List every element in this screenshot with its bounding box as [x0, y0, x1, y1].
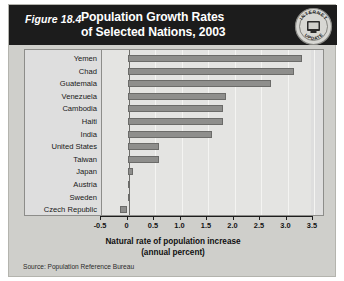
- category-label: Venezuela: [25, 91, 97, 103]
- figure-card: Figure 18.4 Population Growth Rates of S…: [8, 4, 336, 277]
- bar: [128, 131, 213, 138]
- x-axis-tick: [127, 216, 128, 220]
- chart-row: Austria: [25, 179, 323, 191]
- x-axis-tick-label: -0.5: [85, 221, 115, 230]
- figure-title-line-2: of Selected Nations, 2003: [81, 25, 281, 40]
- chart-row: Czech Republic: [25, 204, 323, 216]
- internet-update-badge-icon: INTERNET UPDATE: [294, 7, 333, 46]
- category-label: Guatemala: [25, 78, 97, 90]
- x-axis-tick-label: 2.5: [244, 221, 274, 230]
- bar: [128, 143, 160, 150]
- chart-row: Sweden: [25, 192, 323, 204]
- x-axis-tick: [206, 216, 207, 220]
- x-axis-tick-label: 0: [112, 221, 142, 230]
- x-axis-tick: [312, 216, 313, 220]
- chart-row: Cambodia: [25, 103, 323, 115]
- chart-plot-frame: YemenChadGuatemalaVenezuelaCambodiaHaiti…: [24, 49, 324, 216]
- x-axis-tick: [153, 216, 154, 220]
- x-axis-title: Natural rate of population increase (ann…: [41, 237, 305, 258]
- category-label: Chad: [25, 66, 97, 78]
- internet-update-badge[interactable]: INTERNET UPDATE: [294, 7, 333, 46]
- x-axis-tick: [180, 216, 181, 220]
- x-axis-title-line-2: (annual percent): [41, 248, 305, 259]
- x-axis-tick-label: 3.0: [271, 221, 301, 230]
- x-axis-tick: [286, 216, 287, 220]
- chart-row: Haiti: [25, 116, 323, 128]
- chart-row: United States: [25, 141, 323, 153]
- category-label: Sweden: [25, 192, 97, 204]
- bar: [128, 194, 130, 201]
- bar: [128, 168, 133, 175]
- x-axis-tick-label: 2.0: [218, 221, 248, 230]
- bar: [128, 93, 226, 100]
- chart-row: India: [25, 129, 323, 141]
- bar: [128, 118, 223, 125]
- bar: [128, 80, 271, 87]
- chart-row: Venezuela: [25, 91, 323, 103]
- bar: [128, 181, 130, 188]
- bar: [128, 68, 295, 75]
- x-axis-title-line-1: Natural rate of population increase: [41, 237, 305, 248]
- category-label: Austria: [25, 179, 97, 191]
- bar: [120, 206, 128, 213]
- category-label: India: [25, 129, 97, 141]
- chart-row: Chad: [25, 66, 323, 78]
- x-axis-tick-label: 0.5: [138, 221, 168, 230]
- bar: [128, 55, 303, 62]
- x-axis-tick-label: 1.0: [165, 221, 195, 230]
- x-axis-tick: [233, 216, 234, 220]
- chart-row: Taiwan: [25, 154, 323, 166]
- chart-row: Guatemala: [25, 78, 323, 90]
- category-label: Yemen: [25, 53, 97, 65]
- category-label: Cambodia: [25, 103, 97, 115]
- figure-title-banner: Figure 18.4 Population Growth Rates of S…: [9, 5, 337, 45]
- figure-title: Population Growth Rates of Selected Nati…: [81, 10, 281, 39]
- category-label: Czech Republic: [25, 204, 97, 216]
- x-axis-tick: [100, 216, 101, 220]
- category-label: Japan: [25, 166, 97, 178]
- x-axis-tick-label: 3.5: [297, 221, 327, 230]
- chart-row: Japan: [25, 166, 323, 178]
- category-label: Haiti: [25, 116, 97, 128]
- x-axis-tick: [259, 216, 260, 220]
- figure-source: Source: Population Reference Bureau: [23, 263, 134, 270]
- figure-number: Figure 18.4: [25, 13, 82, 25]
- category-label: Taiwan: [25, 154, 97, 166]
- chart-row: Yemen: [25, 53, 323, 65]
- bar: [128, 156, 160, 163]
- category-label: United States: [25, 141, 97, 153]
- figure-title-line-1: Population Growth Rates: [81, 10, 281, 25]
- bar: [128, 105, 223, 112]
- x-axis-tick-label: 1.5: [191, 221, 221, 230]
